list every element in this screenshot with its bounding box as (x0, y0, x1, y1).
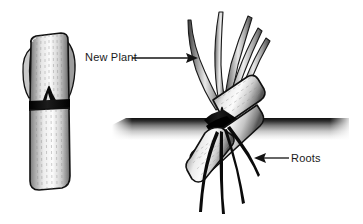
label-roots: Roots (291, 153, 321, 164)
label-new-plant: New Plant (85, 52, 137, 63)
new-plant-arrow (132, 53, 198, 63)
lower-internode (30, 108, 70, 190)
stem-cutting-planted (186, 12, 270, 214)
roots-arrow (254, 153, 289, 163)
illustration-svg (0, 0, 363, 224)
figure-canvas: New Plant Roots (0, 0, 363, 224)
stem-cutting-unplanted (23, 33, 75, 190)
